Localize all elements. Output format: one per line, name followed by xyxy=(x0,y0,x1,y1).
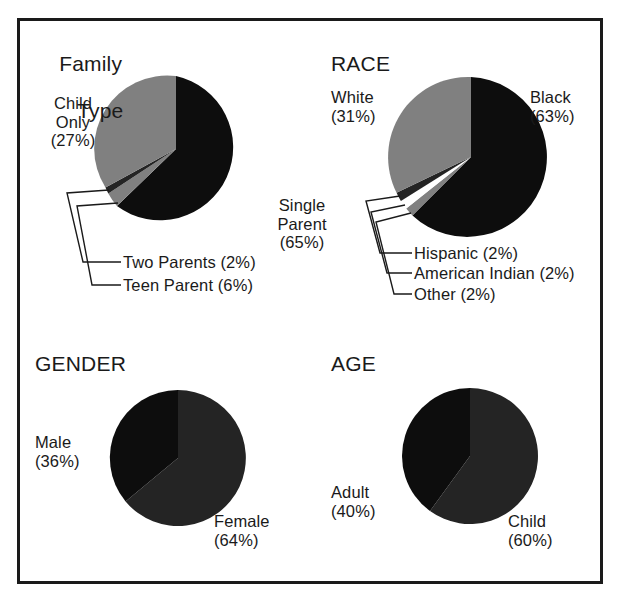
figure-canvas: Family Type Child Only (27%) Single Pare… xyxy=(0,0,620,600)
label-female: Female (64%) xyxy=(214,512,270,549)
label-other: Other (2%) xyxy=(414,285,496,304)
label-teen-parent: Teen Parent (6%) xyxy=(123,276,253,295)
label-child: Child (60%) xyxy=(508,512,553,549)
label-male: Male (36%) xyxy=(35,433,80,470)
panel-title-gender: GENDER xyxy=(35,352,126,376)
panel-title-race: RACE xyxy=(331,52,390,76)
panel-title-family-type-line1: Family xyxy=(59,52,122,75)
label-white: White (31%) xyxy=(331,88,376,125)
panel-title-age: AGE xyxy=(331,352,376,376)
label-single-parent: Single Parent (65%) xyxy=(256,196,348,252)
label-adult: Adult (40%) xyxy=(331,483,376,520)
label-american-indian: American Indian (2%) xyxy=(414,264,575,283)
label-child-only: Child Only (27%) xyxy=(30,94,116,150)
label-two-parents: Two Parents (2%) xyxy=(123,253,256,272)
label-hispanic: Hispanic (2%) xyxy=(414,244,518,263)
label-black: Black (63%) xyxy=(530,88,575,125)
